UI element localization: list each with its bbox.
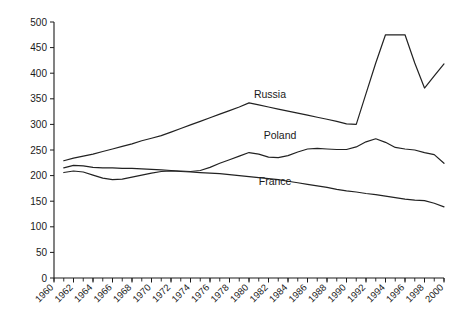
- x-axis-ticks: [54, 278, 444, 283]
- y-tick-label: 250: [30, 145, 47, 156]
- x-tick-label: 1990: [325, 282, 348, 305]
- y-tick-label: 300: [30, 119, 47, 130]
- x-tick-label: 1988: [306, 282, 329, 305]
- x-tick-label: 1968: [111, 282, 134, 305]
- series-label-poland: Poland: [264, 129, 297, 141]
- y-axis-ticks: [50, 22, 54, 278]
- x-tick-label: 1996: [384, 282, 407, 305]
- y-tick-label: 500: [30, 17, 47, 28]
- y-tick-label: 50: [36, 247, 48, 258]
- chart-canvas: 050100150200250300350400450500 196019621…: [0, 0, 460, 332]
- x-tick-label: 1964: [72, 282, 95, 305]
- y-axis-tick-labels: 050100150200250300350400450500: [30, 17, 47, 284]
- x-tick-label: 1976: [189, 282, 212, 305]
- x-tick-label: 1984: [267, 282, 290, 305]
- x-tick-label: 1970: [130, 282, 153, 305]
- y-tick-label: 400: [30, 68, 47, 79]
- y-tick-label: 450: [30, 42, 47, 53]
- x-tick-label: 1972: [150, 282, 173, 305]
- x-tick-label: 1992: [345, 282, 368, 305]
- line-chart: 050100150200250300350400450500 196019621…: [0, 0, 460, 332]
- x-tick-label: 1978: [208, 282, 231, 305]
- series-label-france: France: [259, 175, 292, 187]
- x-tick-label: 1962: [52, 282, 75, 305]
- x-tick-label: 1982: [247, 282, 270, 305]
- y-axis-group: 050100150200250300350400450500: [30, 17, 54, 284]
- y-tick-label: 350: [30, 93, 47, 104]
- y-tick-label: 150: [30, 196, 47, 207]
- series-lines: [64, 35, 444, 207]
- x-tick-label: 1980: [228, 282, 251, 305]
- x-tick-label: 1974: [169, 282, 192, 305]
- x-tick-label: 2000: [423, 282, 446, 305]
- series-line-poland: [64, 139, 444, 172]
- y-tick-label: 100: [30, 221, 47, 232]
- series-label-russia: Russia: [254, 88, 286, 100]
- x-axis-group: 1960196219641966196819701972197419761978…: [33, 278, 446, 304]
- x-axis-tick-labels: 1960196219641966196819701972197419761978…: [33, 282, 446, 305]
- x-tick-label: 1998: [403, 282, 426, 305]
- x-tick-label: 1986: [286, 282, 309, 305]
- y-tick-label: 200: [30, 170, 47, 181]
- x-tick-label: 1960: [33, 282, 56, 305]
- series-line-france: [64, 171, 444, 207]
- x-tick-label: 1994: [364, 282, 387, 305]
- x-tick-label: 1966: [91, 282, 114, 305]
- series-inline-labels: RussiaPolandFrance: [254, 88, 297, 187]
